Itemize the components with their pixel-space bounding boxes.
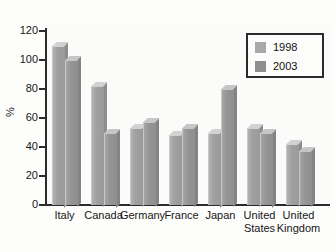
bar-face [247, 128, 260, 205]
bar-canada-1998 [91, 86, 103, 205]
bar-face [169, 135, 182, 205]
bar-face [130, 128, 143, 205]
x-axis-label-line2: Kingdom [273, 222, 325, 235]
bar-germany-1998 [130, 128, 142, 205]
bar-united-states-2003 [260, 133, 272, 206]
bar-face [299, 151, 312, 205]
bar-face [65, 60, 78, 205]
bar-italy-1998 [52, 46, 64, 206]
y-axis-tick [39, 146, 46, 148]
bar-face [208, 133, 221, 206]
bar-united-states-1998 [247, 128, 259, 205]
bar-france-2003 [182, 128, 194, 205]
y-axis-tick-label: 100 [4, 54, 38, 65]
bar-face [286, 144, 299, 205]
y-axis-tick [39, 59, 46, 61]
bar-japan-2003 [221, 89, 233, 205]
chart-legend: 19982003 [246, 33, 324, 78]
bar-face [143, 122, 156, 205]
bar-face [91, 86, 104, 205]
y-axis-tick-label: 0 [4, 199, 38, 210]
y-axis-tick [39, 88, 46, 90]
y-axis-tick [39, 175, 46, 177]
bar-france-1998 [169, 135, 181, 205]
legend-label-1998: 1998 [273, 41, 297, 54]
legend-swatch-2003 [255, 61, 266, 72]
legend-swatch-1998 [255, 42, 266, 53]
bar-germany-2003 [143, 122, 155, 205]
bar-japan-1998 [208, 133, 220, 206]
y-axis-tick-label: 80 [4, 83, 38, 94]
y-axis-tick-label: 40 [4, 141, 38, 152]
bar-italy-2003 [65, 60, 77, 205]
bar-face [221, 89, 234, 205]
y-axis-tick-label: 120 [4, 25, 38, 36]
bar-face [182, 128, 195, 205]
y-axis-tick-label: 20 [4, 170, 38, 181]
bar-face [104, 133, 117, 206]
y-axis-title: % [4, 95, 16, 129]
bar-face [260, 133, 273, 206]
bar-chart-figure: 120100806040200 % ItalyCanadaGermanyFran… [0, 0, 335, 252]
y-axis-tick [39, 117, 46, 119]
legend-label-2003: 2003 [273, 60, 297, 73]
bar-face [52, 46, 65, 206]
x-axis-label-united-kingdom: UnitedKingdom [273, 209, 325, 235]
y-axis-tick [39, 30, 46, 32]
bar-canada-2003 [104, 133, 116, 206]
bar-united-kingdom-2003 [299, 151, 311, 205]
x-axis-label-line1: United [273, 209, 325, 222]
y-axis-tick [39, 204, 46, 206]
bar-united-kingdom-1998 [286, 144, 298, 205]
